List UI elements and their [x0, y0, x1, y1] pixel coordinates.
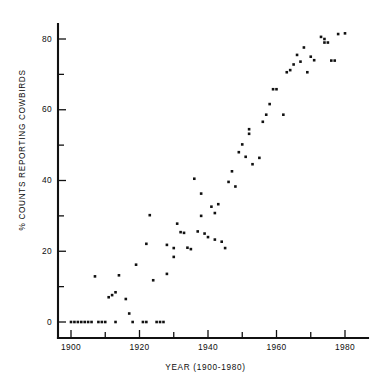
plot-area — [0, 0, 387, 389]
data-point — [268, 103, 271, 106]
data-point — [224, 247, 227, 250]
data-point — [118, 274, 121, 277]
data-point — [152, 279, 155, 282]
data-point — [292, 63, 295, 66]
data-point — [111, 294, 114, 297]
x-tick-label: 1940 — [188, 342, 228, 352]
data-point — [200, 192, 203, 195]
data-point — [179, 231, 182, 234]
data-point — [172, 247, 175, 250]
data-point — [220, 240, 223, 243]
x-tick-label: 1980 — [325, 342, 365, 352]
data-point — [87, 321, 90, 324]
data-point — [80, 321, 83, 324]
data-point — [323, 38, 326, 41]
data-point — [231, 170, 234, 173]
data-point — [241, 143, 244, 146]
data-point — [344, 32, 347, 35]
data-point — [214, 238, 217, 241]
data-point — [196, 230, 199, 233]
y-tick-marks — [58, 39, 66, 322]
data-point — [289, 69, 292, 72]
data-points-layer — [70, 32, 347, 323]
data-point — [275, 88, 278, 91]
data-point — [244, 156, 247, 159]
data-point — [282, 113, 285, 116]
data-point — [77, 321, 80, 324]
data-point — [320, 36, 323, 39]
data-point — [299, 60, 302, 63]
data-point — [155, 321, 158, 324]
y-tick-label: 60 — [26, 104, 52, 114]
data-point — [190, 248, 193, 251]
data-point — [258, 157, 261, 160]
data-point — [128, 312, 131, 315]
data-point — [90, 321, 93, 324]
scatter-chart-figure: % COUNTS REPORTING COWBIRDS YEAR (1900-1… — [0, 0, 387, 389]
data-point — [83, 321, 86, 324]
data-point — [285, 71, 288, 74]
data-point — [337, 33, 340, 36]
data-point — [162, 321, 165, 324]
data-point — [248, 128, 251, 131]
data-point — [327, 41, 330, 44]
data-point — [176, 222, 179, 225]
data-point — [148, 214, 151, 217]
data-point — [272, 88, 275, 91]
y-tick-label: 40 — [26, 175, 52, 185]
data-point — [193, 177, 196, 180]
data-point — [227, 181, 230, 184]
data-point — [131, 321, 134, 324]
data-point — [186, 246, 189, 249]
data-point — [309, 55, 312, 58]
data-point — [107, 296, 110, 299]
data-point — [166, 244, 169, 247]
data-point — [125, 298, 128, 301]
axis-spines — [58, 24, 368, 338]
data-point — [135, 263, 138, 266]
data-point — [101, 321, 104, 324]
data-point — [114, 291, 117, 294]
data-point — [104, 321, 107, 324]
data-point — [200, 215, 203, 218]
data-point — [210, 205, 213, 208]
data-point — [238, 151, 241, 154]
data-point — [73, 321, 76, 324]
data-point — [296, 54, 299, 57]
data-point — [207, 236, 210, 239]
data-point — [303, 46, 306, 49]
data-point — [214, 212, 217, 215]
x-tick-label: 1960 — [257, 342, 297, 352]
data-point — [166, 273, 169, 276]
data-point — [265, 113, 268, 116]
data-point — [94, 275, 97, 278]
data-point — [159, 321, 162, 324]
data-point — [306, 71, 309, 74]
x-tick-label: 1900 — [51, 342, 91, 352]
data-point — [248, 133, 251, 136]
x-tick-label: 1920 — [120, 342, 160, 352]
y-tick-label: 20 — [26, 246, 52, 256]
data-point — [323, 41, 326, 44]
data-point — [203, 232, 206, 235]
data-point — [142, 321, 145, 324]
data-point — [330, 59, 333, 62]
data-point — [97, 321, 100, 324]
data-point — [145, 243, 148, 246]
x-tick-marks — [71, 330, 345, 338]
data-point — [145, 321, 148, 324]
data-point — [217, 203, 220, 206]
data-point — [313, 59, 316, 62]
data-point — [172, 256, 175, 259]
y-tick-label: 80 — [26, 34, 52, 44]
data-point — [333, 59, 336, 62]
data-point — [234, 185, 237, 188]
data-point — [251, 163, 254, 166]
y-tick-label: 0 — [26, 317, 52, 327]
data-point — [114, 321, 117, 324]
data-point — [183, 232, 186, 235]
data-point — [262, 120, 265, 123]
data-point — [70, 321, 73, 324]
